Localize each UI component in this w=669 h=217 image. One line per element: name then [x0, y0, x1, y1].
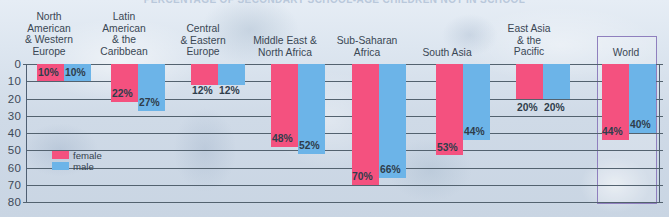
y-tick-0: 0: [14, 58, 21, 70]
legend-label-female: female: [73, 150, 102, 161]
y-tick-10: 10: [8, 75, 21, 87]
value-label-male-central-eastern-europe: 12%: [219, 85, 240, 96]
y-tick-60: 60: [8, 162, 21, 174]
axis-tick-right-20: [659, 99, 663, 100]
gridline-80: [27, 202, 659, 203]
bar-group-north-american-western-europe: [37, 64, 91, 202]
value-label-female-south-asia: 53%: [437, 142, 458, 153]
bar-male[interactable]: [379, 64, 406, 178]
value-label-female-north-american-western-europe: 10%: [38, 67, 59, 78]
axis-tick-right-30: [659, 116, 663, 117]
axis-tick-right-70: [659, 185, 663, 186]
group-label-north-american-western-europe: North American & Western Europe: [8, 11, 90, 57]
legend-label-male: male: [73, 161, 94, 172]
value-label-male-latin-american-caribbean: 27%: [139, 97, 160, 108]
group-label-middle-east-north-africa: Middle East & North Africa: [240, 35, 330, 58]
bar-group-latin-american-caribbean: [111, 64, 165, 202]
legend-item-female[interactable]: female: [52, 150, 102, 160]
y-tick-40: 40: [8, 127, 21, 139]
chart-legend: female male: [52, 150, 102, 172]
legend-swatch-male-icon: [52, 162, 69, 170]
legend-swatch-female-icon: [52, 151, 69, 159]
group-label-south-asia: South Asia: [404, 47, 490, 59]
axis-tick-right-0: [659, 64, 663, 65]
legend-item-male[interactable]: male: [52, 161, 102, 171]
value-label-female-world: 44%: [602, 126, 623, 137]
group-label-central-eastern-europe: Central & Eastern Europe: [162, 23, 244, 58]
value-label-female-latin-american-caribbean: 22%: [112, 88, 133, 99]
bar-female[interactable]: [516, 64, 543, 99]
value-label-male-east-asia-pacific: 20%: [544, 102, 565, 113]
value-label-male-south-asia: 44%: [464, 126, 485, 137]
value-label-female-sub-saharan-africa: 70%: [352, 171, 373, 182]
value-label-female-central-eastern-europe: 12%: [192, 85, 213, 96]
y-tick-50: 50: [8, 144, 21, 156]
axis-tick-right-40: [659, 133, 663, 134]
y-tick-70: 70: [8, 179, 21, 191]
value-label-female-middle-east-north-africa: 48%: [272, 133, 293, 144]
bar-male[interactable]: [543, 64, 570, 99]
value-label-female-east-asia-pacific: 20%: [517, 102, 538, 113]
value-label-male-world: 40%: [630, 119, 651, 130]
axis-tick-left-80: [23, 202, 27, 203]
chart-title: PERCENTAGE OF SECONDARY SCHOOL-AGE CHILD…: [0, 0, 669, 6]
axis-tick-right-80: [659, 202, 663, 203]
group-label-world: World: [598, 47, 654, 59]
bar-male[interactable]: [218, 64, 245, 85]
group-label-east-asia-pacific: East Asia & the Pacific: [490, 23, 568, 58]
value-label-male-middle-east-north-africa: 52%: [299, 140, 320, 151]
chart-figure: PERCENTAGE OF SECONDARY SCHOOL-AGE CHILD…: [0, 0, 669, 217]
y-axis-labels: 0 10 20 30 40 50 60 70 80: [0, 64, 24, 202]
group-label-latin-american-caribbean: Latin American & the Caribbean: [83, 11, 165, 57]
axis-tick-right-10: [659, 81, 663, 82]
y-tick-30: 30: [8, 110, 21, 122]
axis-tick-right-60: [659, 168, 663, 169]
bar-female[interactable]: [191, 64, 218, 85]
axis-tick-right-50: [659, 150, 663, 151]
value-label-male-north-american-western-europe: 10%: [65, 67, 86, 78]
plot-area: [26, 64, 660, 202]
bar-group-east-asia-pacific: [516, 64, 570, 202]
y-tick-80: 80: [8, 196, 21, 208]
bar-female[interactable]: [352, 64, 379, 185]
y-tick-20: 20: [8, 93, 21, 105]
value-label-male-sub-saharan-africa: 66%: [380, 164, 401, 175]
group-label-sub-saharan-africa: Sub-Saharan Africa: [324, 35, 410, 58]
